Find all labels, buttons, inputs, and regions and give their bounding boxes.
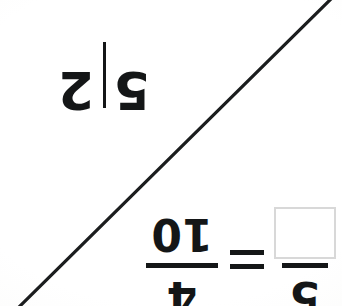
fraction-right: 4 10 — [142, 209, 222, 306]
fraction-right-numerator: 4 — [142, 272, 222, 306]
fraction-left-bar — [282, 263, 328, 268]
fraction-right-denominator: 10 — [142, 209, 222, 259]
digit-pair-group: 5 2 — [36, 36, 156, 122]
equation-group: 5 = 4 10 — [140, 192, 342, 306]
fraction-left-numerator: 5 — [270, 272, 340, 306]
vertical-divider-bar — [103, 42, 106, 108]
scanned-worksheet-page: 5 2 | 5 = 4 10 — [0, 0, 342, 306]
digit-left: 5 — [114, 64, 150, 116]
answer-input-box[interactable] — [274, 207, 336, 259]
fraction-left-denominator — [270, 209, 340, 259]
fraction-left: 5 — [270, 209, 340, 306]
fraction-right-bar — [146, 263, 218, 268]
equals-bar-top — [230, 264, 264, 269]
equals-sign — [230, 245, 264, 269]
digit-right: 2 — [58, 64, 94, 116]
vertical-divider-label: | — [0, 0, 1, 1]
equals-bar-bottom — [230, 250, 264, 255]
